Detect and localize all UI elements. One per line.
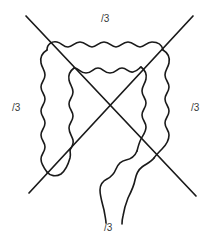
cecum-curve: [47, 150, 70, 176]
descending-colon-outer-wall: [154, 50, 169, 158]
label-top: /3: [101, 13, 109, 24]
transverse-colon-lower-edge: [74, 67, 141, 73]
transverse-colon-upper-edge: [47, 42, 163, 50]
sigmoid-colon-right-lobe: [122, 158, 154, 224]
ascending-colon-outer-wall: [41, 50, 47, 172]
ascending-colon-inner-wall: [69, 68, 74, 150]
sigmoid-colon-left-lobe: [100, 151, 137, 223]
colon-diagram-svg: [0, 0, 219, 243]
label-left: /3: [12, 102, 20, 113]
figure-canvas: /3 /3 /3 /3: [0, 0, 219, 243]
label-bottom: /3: [104, 222, 112, 233]
colon-outline-group: [41, 42, 170, 224]
label-right: /3: [191, 102, 199, 113]
